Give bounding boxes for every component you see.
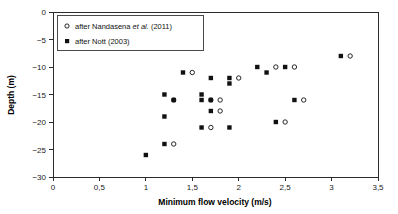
data-point-circle [283, 120, 287, 124]
x-tick-label: 2,5 [280, 183, 292, 192]
data-point-square [162, 92, 166, 96]
x-tick-label: 1,5 [187, 183, 199, 192]
data-point-circle [348, 54, 352, 58]
data-point-circle [218, 109, 222, 113]
data-point-square [292, 98, 296, 102]
data-point-square [227, 125, 231, 129]
x-tick-label: 3 [329, 183, 334, 192]
data-point-circle [209, 125, 213, 129]
x-tick-label: 3,5 [372, 183, 384, 192]
series-nandasena [172, 54, 353, 146]
x-tick-label: 1 [144, 183, 149, 192]
x-tick-label: 0,5 [94, 183, 106, 192]
data-point-square [255, 65, 259, 69]
data-point-square [144, 153, 148, 157]
y-tick-label: −5 [37, 36, 47, 45]
data-point-square [227, 76, 231, 80]
data-point-square [199, 125, 203, 129]
data-point-square [209, 109, 213, 113]
chart-legend: after Nandasena et al. (2011)after Nott … [57, 15, 203, 50]
data-point-square [339, 54, 343, 58]
data-point-circle [190, 70, 194, 74]
data-point-square [199, 98, 203, 102]
plot-svg: 00,511,522,533,50−5−10−15−20−25−30 after… [0, 0, 398, 214]
data-point-square [283, 65, 287, 69]
legend-marker-circle [65, 24, 69, 28]
y-tick-label: −25 [32, 146, 46, 155]
y-tick-label: −20 [32, 118, 46, 127]
data-point-square [199, 92, 203, 96]
data-point-square [209, 76, 213, 80]
data-point-circle [237, 76, 241, 80]
data-point-circle [218, 98, 222, 102]
data-point-square [227, 81, 231, 85]
y-tick-label: −10 [32, 63, 46, 72]
data-point-square [172, 98, 176, 102]
data-point-circle [302, 98, 306, 102]
y-tick-label: −30 [32, 173, 46, 182]
legend-label-nandasena: after Nandasena et al. (2011) [75, 22, 173, 31]
data-point-circle [274, 65, 278, 69]
data-point-circle [172, 142, 176, 146]
data-point-square [162, 142, 166, 146]
data-point-square [274, 120, 278, 124]
legend-marker-square [65, 39, 69, 43]
x-axis-title: Minimum flow velocity (m/s) [158, 197, 272, 207]
data-point-square [181, 70, 185, 74]
y-axis-title: Depth (m) [6, 75, 16, 115]
y-tick-label: −15 [32, 91, 46, 100]
x-tick-label: 0 [51, 183, 56, 192]
data-point-circle [292, 65, 296, 69]
data-points [144, 54, 353, 157]
y-tick-label: 0 [42, 8, 47, 17]
legend-label-nott: after Nott (2003) [75, 37, 130, 46]
data-point-square [264, 70, 268, 74]
data-point-square [209, 98, 213, 102]
data-point-square [162, 114, 166, 118]
x-tick-label: 2 [236, 183, 241, 192]
scatter-chart-figure: 00,511,522,533,50−5−10−15−20−25−30 after… [0, 0, 398, 214]
